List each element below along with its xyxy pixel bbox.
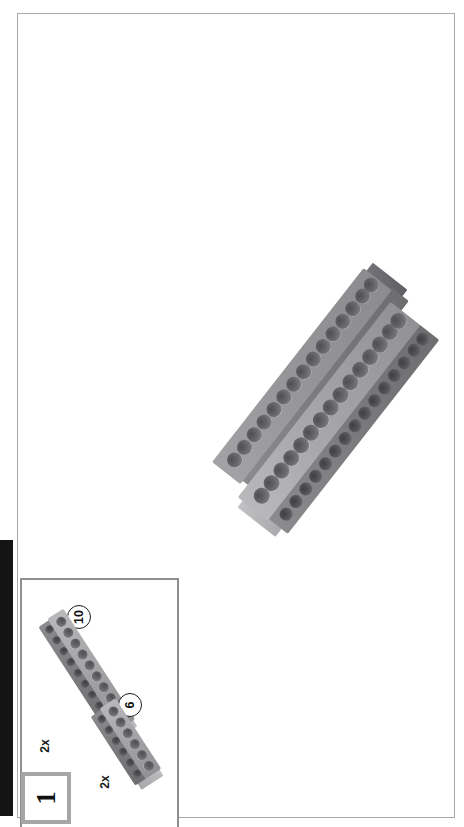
step-number-box: 1 <box>21 772 71 824</box>
part-beam-10-quantity: 2x <box>39 739 51 752</box>
instruction-page: 10 <box>0 0 464 827</box>
page-edge-marker <box>0 540 13 816</box>
part-beam-6-quantity: 2x <box>99 775 111 788</box>
assembly-illustration <box>222 248 440 560</box>
step-number-label: 1 <box>33 791 60 805</box>
